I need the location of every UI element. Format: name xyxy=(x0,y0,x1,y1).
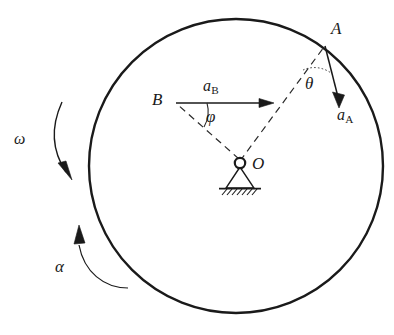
kinematics-figure: A B O aA aB θ φ ω α xyxy=(0,0,394,335)
vector-label-aA: aA xyxy=(337,107,353,123)
point-label-O: O xyxy=(252,155,264,172)
ground-hatching xyxy=(222,189,257,195)
angle-label-phi: φ xyxy=(206,108,215,125)
angular-acceleration-arrowhead xyxy=(74,225,85,244)
angular-acceleration-label: α xyxy=(55,258,64,275)
angular-acceleration-arc xyxy=(79,245,128,288)
vector-label-aA-subscript: A xyxy=(345,113,353,125)
diagram-canvas xyxy=(0,0,394,335)
point-label-A: A xyxy=(331,20,341,37)
pivot-point-O xyxy=(235,158,245,168)
point-label-B: B xyxy=(152,91,162,108)
vector-label-aA-base: a xyxy=(337,106,345,123)
angular-velocity-label: ω xyxy=(14,131,25,147)
angular-velocity-arrowhead xyxy=(58,161,72,180)
vector-label-aB-base: a xyxy=(203,77,211,94)
vector-label-aB-subscript: B xyxy=(211,84,218,96)
radius-line-OA xyxy=(240,47,324,161)
vector-label-aB: aB xyxy=(203,78,218,94)
angle-label-theta: θ xyxy=(305,75,313,92)
pin-support-triangle xyxy=(226,167,254,188)
vector-aB-arrowhead xyxy=(259,99,274,108)
